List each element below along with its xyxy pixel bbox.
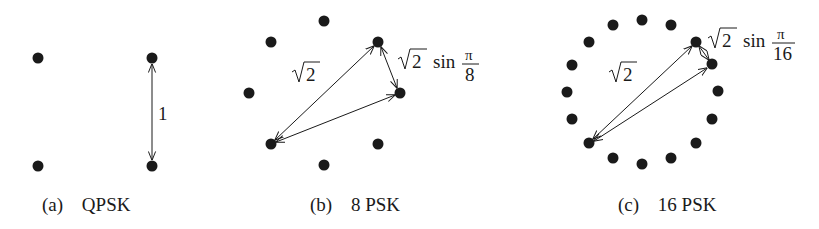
svg-text:2: 2 — [306, 64, 316, 85]
svg-text:π: π — [777, 26, 785, 42]
constellation-point — [567, 60, 578, 71]
caption: (a) QPSK — [42, 194, 131, 216]
long-distance-arrow — [275, 46, 374, 140]
short-distance-label: 2 sin π 16 — [708, 26, 795, 64]
svg-text:2: 2 — [412, 51, 422, 72]
svg-text:2: 2 — [722, 30, 732, 51]
long-distance-label: 2 — [609, 62, 637, 85]
constellation-point — [147, 53, 158, 64]
constellation-point — [319, 16, 330, 27]
constellation-point — [33, 53, 44, 64]
constellation-point — [266, 37, 277, 48]
long-distance-arrow — [276, 95, 395, 142]
svg-text:16: 16 — [773, 43, 792, 64]
constellation-point — [147, 161, 158, 172]
panel-qpsk: 1 (a) QPSK — [33, 53, 168, 217]
constellation-point — [584, 37, 595, 48]
constellation-point — [666, 153, 677, 164]
svg-text:8: 8 — [465, 64, 475, 85]
svg-text:2: 2 — [623, 64, 633, 85]
constellation-point — [584, 138, 595, 149]
constellation-point — [637, 159, 648, 170]
svg-text:π: π — [465, 47, 473, 63]
panel-16psk: 2 2 sin π 16 (c) 16 PSK — [562, 15, 796, 217]
constellation-point — [567, 114, 578, 125]
panel-8psk: 2 2 sin π 8 (b) 8 PSK — [244, 16, 480, 217]
constellation-point — [395, 88, 406, 99]
long-distance-arrow — [593, 46, 692, 139]
constellation-point — [666, 20, 677, 31]
short-distance-label: 2 sin π 8 — [398, 47, 479, 85]
constellation-point — [33, 161, 44, 172]
constellation-point — [373, 37, 384, 48]
caption: (b) 8 PSK — [310, 194, 400, 216]
caption: (c) 16 PSK — [618, 194, 717, 216]
long-distance-arrow — [594, 68, 707, 141]
constellation-point — [266, 139, 277, 150]
constellation-point — [691, 37, 702, 48]
svg-text:sin: sin — [743, 30, 766, 51]
distance-label: 1 — [158, 103, 168, 124]
long-distance-label: 2 — [292, 62, 320, 85]
constellation-point — [713, 86, 724, 97]
constellation-point — [562, 87, 573, 98]
constellation-point — [608, 20, 619, 31]
psk-constellation-figure: 1 (a) QPSK 2 2 sin π 8 (b) 8 PSK — [0, 0, 819, 229]
constellation-point — [608, 153, 619, 164]
svg-text:sin: sin — [433, 51, 456, 72]
short-distance-arrow — [699, 46, 709, 60]
constellation-point — [244, 88, 255, 99]
constellation-point — [707, 114, 718, 125]
constellation-point — [637, 15, 648, 26]
constellation-point — [373, 139, 384, 150]
short-distance-arrow — [381, 47, 397, 88]
constellation-point — [319, 160, 330, 171]
constellation-point — [691, 138, 702, 149]
constellation-point — [707, 59, 718, 70]
